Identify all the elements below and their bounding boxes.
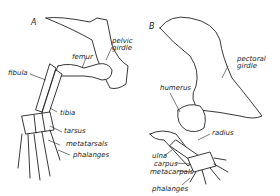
- skeleton-drawing: [0, 0, 280, 196]
- label-phalanges-b: phalanges: [152, 186, 188, 193]
- label-pectoral-girdle: pectoral girdle: [237, 56, 266, 70]
- label-tarsus: tarsus: [64, 128, 86, 135]
- label-tibia: tibia: [60, 110, 75, 117]
- panel-label-a: A: [31, 18, 36, 27]
- label-ulna: ulna: [152, 153, 167, 160]
- label-radius: radius: [212, 130, 234, 137]
- label-humerus: humerus: [160, 85, 191, 92]
- label-femur: femur: [72, 54, 93, 61]
- label-carpus: carpus: [154, 161, 178, 168]
- label-metacarpals: metacarpals: [150, 169, 194, 176]
- limb-skeleton-diagram: A pelvic girdle femur fibula tibia tarsu…: [0, 0, 280, 196]
- label-metatarsals: metatarsals: [66, 141, 108, 148]
- label-pelvic-girdle: pelvic girdle: [112, 38, 133, 52]
- label-phalanges-a: phalanges: [73, 152, 109, 159]
- label-fibula: fibula: [8, 70, 28, 77]
- panel-label-b: B: [149, 22, 155, 31]
